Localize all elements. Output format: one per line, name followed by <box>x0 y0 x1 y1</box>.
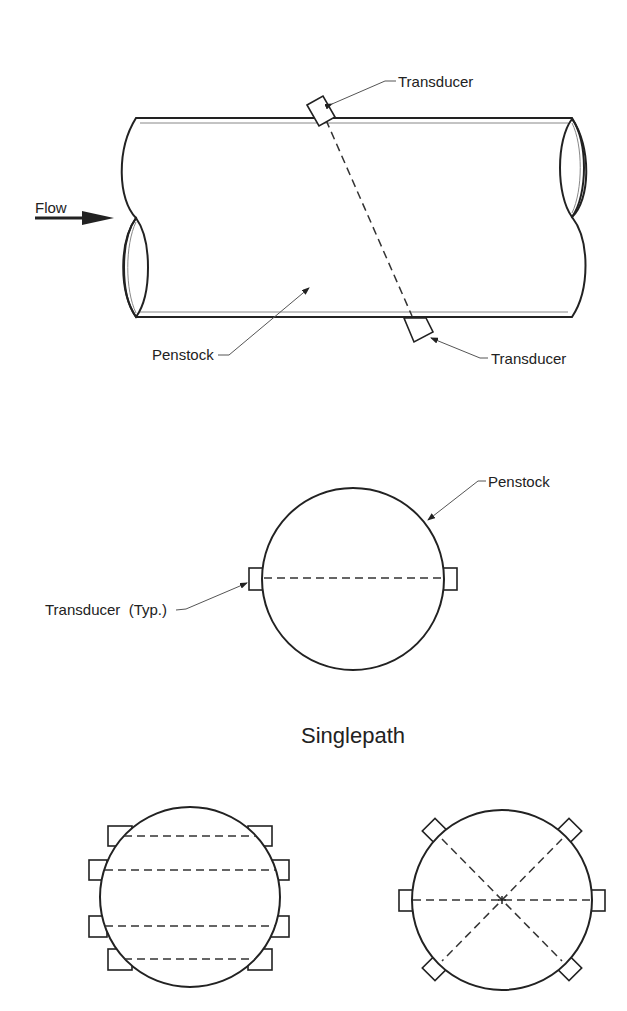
singlepath-penstock-label: Penstock <box>488 473 550 490</box>
top-transducer <box>307 96 335 126</box>
singlepath-penstock-circle <box>262 488 444 670</box>
multipath-parallel-section <box>89 807 289 987</box>
singlepath-transducer-leader <box>176 583 247 610</box>
pipe-side-view: Transducer Transducer Penstock Flow <box>35 73 586 367</box>
flow-label: Flow <box>35 199 67 216</box>
penstock-leader <box>218 288 309 355</box>
pipe-outline <box>122 118 587 317</box>
bottom-transducer <box>404 318 433 342</box>
bottom-transducer-leader <box>431 338 488 358</box>
singlepath-caption: Singlepath <box>301 723 405 748</box>
top-transducer-leader <box>332 81 396 104</box>
top-transducer-label: Transducer <box>398 73 473 90</box>
multipath-crossed-section <box>399 810 605 990</box>
singlepath-transducer-label: Transducer (Typ.) <box>45 601 167 618</box>
singlepath-section: Penstock Transducer (Typ.) Singlepath <box>45 473 550 748</box>
diagram-canvas: Transducer Transducer Penstock Flow Pens… <box>0 0 627 1011</box>
singlepath-penstock-leader <box>428 481 486 520</box>
acoustic-path-diagonal <box>326 120 412 316</box>
penstock-label: Penstock <box>152 346 214 363</box>
bottom-transducer-label: Transducer <box>491 350 566 367</box>
parallel-penstock-circle <box>100 807 280 987</box>
pipe-left-cut-inner <box>128 222 136 313</box>
